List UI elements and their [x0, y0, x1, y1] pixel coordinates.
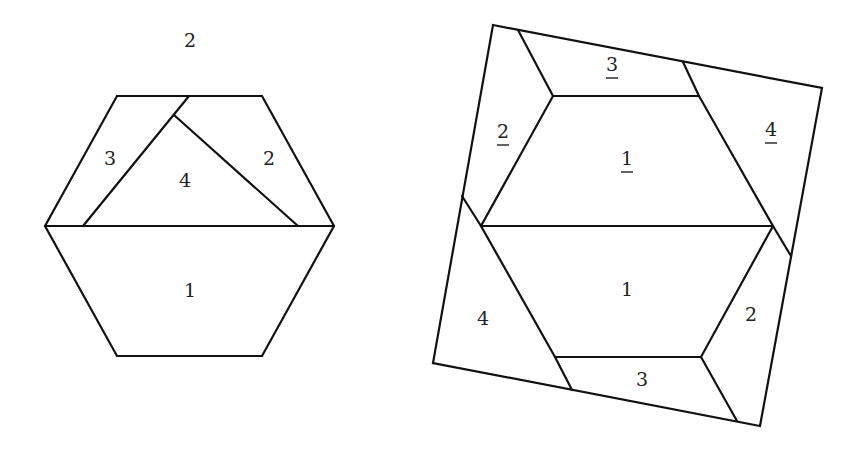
square-figure: 1 2 3 4 1 2 3 4	[433, 25, 822, 426]
hexagon-top-label: 2	[184, 29, 196, 51]
square-piece-label-2: 2	[745, 303, 757, 325]
hexagon-piece-label-2: 2	[263, 147, 275, 169]
dissection-diagram: 2 1 2 3 4 1 2 3 4 1 2 3 4	[0, 0, 856, 452]
square-piece-label-4: 4	[477, 307, 489, 329]
square-piece-label-4-underlined: 4	[765, 118, 777, 140]
square-piece-label-1-underlined: 1	[621, 147, 633, 169]
square-piece-label-1: 1	[621, 278, 633, 300]
hexagon-piece-label-3: 3	[104, 147, 116, 169]
square-piece-label-3-underlined: 3	[606, 53, 618, 75]
hexagon-piece-label-1: 1	[184, 279, 196, 301]
square-cut-top-right	[683, 62, 699, 96]
square-cut-top-left	[518, 30, 553, 96]
hexagon-figure: 2 1 2 3 4	[45, 29, 334, 356]
hexagon-piece-label-4: 4	[179, 169, 191, 191]
square-cut-bottom-left	[555, 357, 572, 390]
square-cut-bottom-right	[701, 357, 737, 421]
square-cut-upper-right	[773, 226, 791, 256]
square-piece-label-2-underlined: 2	[497, 120, 509, 142]
hexagon-cut-triangle-side	[174, 115, 298, 226]
square-piece-label-3: 3	[636, 368, 648, 390]
square-cut-left	[462, 196, 481, 226]
